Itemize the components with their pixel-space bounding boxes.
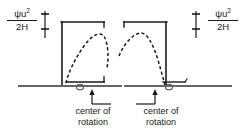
right-pressure-numerator-base: ψu xyxy=(215,8,227,19)
left-pressure-label: ψu2 2H xyxy=(7,9,37,31)
right-pivot-circle xyxy=(165,84,172,90)
right-pressure-numerator: ψu2 xyxy=(208,9,238,20)
left-pressure-curve xyxy=(66,34,108,83)
left-callout-arrowhead xyxy=(89,89,94,95)
left-center-of-rotation-label: center of rotation xyxy=(56,106,130,127)
right-base-end-tick xyxy=(185,79,187,82)
left-callout-leader xyxy=(89,89,111,104)
right-callout-line-2: rotation xyxy=(124,117,198,128)
right-callout-arrowhead xyxy=(152,89,157,95)
left-callout-line-1: center of xyxy=(56,106,130,117)
right-center-of-rotation-label: center of rotation xyxy=(124,106,198,127)
left-pressure-denominator: 2H xyxy=(7,21,37,32)
left-pressure-numerator: ψu2 xyxy=(7,9,37,20)
right-callout-leader xyxy=(136,89,158,104)
left-pressure-numerator-base: ψu xyxy=(14,8,26,19)
right-callout-line-1: center of xyxy=(124,106,198,117)
right-dimension-marker xyxy=(192,11,200,38)
left-callout-line-2: rotation xyxy=(56,117,130,128)
left-dimension-marker xyxy=(41,11,49,38)
right-pressure-label: ψu2 2H xyxy=(208,9,238,31)
right-pressure-curve xyxy=(119,33,165,86)
right-panel xyxy=(119,22,187,90)
left-pressure-numerator-exponent: 2 xyxy=(26,7,30,14)
right-pressure-numerator-exponent: 2 xyxy=(227,7,231,14)
left-pivot-circle xyxy=(76,84,83,90)
left-panel xyxy=(61,22,108,90)
right-pressure-denominator: 2H xyxy=(208,21,238,32)
diagram-figure: ψu2 2H ψu2 2H center of rotation center … xyxy=(0,0,246,131)
